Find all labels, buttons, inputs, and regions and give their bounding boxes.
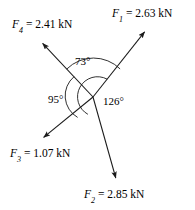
force-equals-f4: = — [23, 18, 35, 30]
force-unit-f2: kN — [130, 188, 144, 200]
force-label-f2: F2 = 2.85 kN — [84, 189, 144, 203]
force-magnitude-f1: 2.63 — [135, 7, 155, 19]
force-arrow-f1 — [93, 32, 145, 97]
force-equals-f2: = — [95, 188, 107, 200]
force-unit-f1: kN — [158, 7, 172, 19]
force-line-f3-f1 — [44, 32, 145, 138]
angle-label-126: 126° — [103, 96, 124, 107]
force-arrow-f2 — [93, 97, 116, 178]
force-magnitude-f2: 2.85 — [107, 188, 127, 200]
force-magnitude-f3: 1.07 — [33, 147, 53, 159]
force-magnitude-f4: 2.41 — [35, 18, 55, 30]
force-arrow-f4 — [43, 43, 93, 97]
force-symbol-f2: F — [84, 188, 91, 200]
angle-label-73: 73° — [75, 56, 90, 67]
force-unit-f4: kN — [58, 18, 72, 30]
force-diagram: F1 = 2.63 kN F2 = 2.85 kN F3 = 1.07 kN F… — [0, 0, 195, 210]
force-subscript-f3: 3 — [17, 155, 21, 164]
force-symbol-f1: F — [112, 7, 119, 19]
force-symbol-f4: F — [12, 18, 19, 30]
force-symbol-f3: F — [10, 147, 17, 159]
force-label-f4: F4 = 2.41 kN — [12, 19, 72, 33]
force-label-f3: F3 = 1.07 kN — [10, 148, 70, 162]
force-equals-f1: = — [123, 7, 135, 19]
force-unit-f3: kN — [56, 147, 70, 159]
force-subscript-f2: 2 — [91, 196, 95, 205]
angle-label-95: 95° — [48, 94, 63, 105]
force-label-f1: F1 = 2.63 kN — [112, 8, 172, 22]
force-equals-f3: = — [21, 147, 33, 159]
force-subscript-f4: 4 — [19, 26, 23, 35]
force-subscript-f1: 1 — [119, 15, 123, 24]
